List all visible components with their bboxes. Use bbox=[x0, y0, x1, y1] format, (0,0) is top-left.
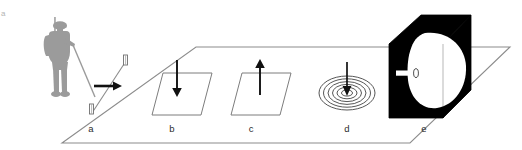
ground-patch-c bbox=[231, 73, 291, 115]
figure-tag: a bbox=[1, 9, 6, 18]
helmet-brim bbox=[54, 25, 67, 28]
detector-shaft bbox=[73, 45, 95, 97]
probe-tip-cap bbox=[414, 69, 419, 78]
probe-shaft bbox=[396, 71, 416, 76]
ground-patch-b bbox=[152, 73, 212, 115]
soldier-boot-right bbox=[60, 91, 70, 97]
panel-c-icon bbox=[231, 59, 291, 115]
panel-label-c: c bbox=[249, 123, 254, 134]
panel-e-icon bbox=[389, 15, 471, 118]
panel-label-b: b bbox=[169, 123, 174, 134]
soldier-leg-left bbox=[53, 68, 59, 92]
figure-container: a bbox=[0, 0, 522, 150]
panel-a-icon bbox=[90, 55, 128, 114]
arrow-down-d-head bbox=[343, 86, 352, 96]
panel-label-a: a bbox=[88, 123, 94, 134]
soldier-leg-right bbox=[61, 68, 67, 92]
panel-label-e: e bbox=[421, 123, 426, 134]
panel-label-d: d bbox=[344, 123, 349, 134]
panel-b-icon bbox=[152, 60, 212, 115]
scene-illustration: a bbox=[0, 0, 522, 150]
soldier-backpack bbox=[44, 34, 52, 56]
arrow-up-c-head bbox=[255, 59, 265, 68]
soldier-boot-left bbox=[51, 91, 61, 97]
soldier-figure bbox=[44, 17, 95, 97]
arrow-right-a-head bbox=[113, 82, 122, 91]
